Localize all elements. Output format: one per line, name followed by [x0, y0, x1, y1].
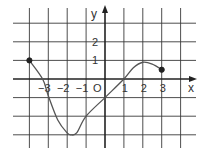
y-tick-label: 1	[92, 54, 98, 66]
function-graph: −3−2−112312 x y O	[0, 0, 206, 160]
x-tick-label: −1	[76, 82, 89, 94]
x-tick-label: 1	[122, 82, 128, 94]
y-tick-label: 2	[92, 36, 98, 48]
x-tick-label: −2	[57, 82, 70, 94]
y-axis-arrow-icon	[102, 5, 108, 13]
x-tick-label: 2	[141, 82, 147, 94]
y-axis-label: y	[91, 7, 97, 21]
endpoint-dot	[27, 58, 32, 63]
endpoint-dot	[159, 67, 164, 72]
x-tick-label: 3	[160, 82, 166, 94]
origin-label: O	[93, 82, 102, 94]
tick-labels: −3−2−112312	[38, 36, 166, 94]
x-axis-label: x	[188, 81, 194, 95]
